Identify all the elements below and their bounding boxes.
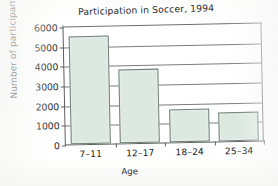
y-tick-mark <box>62 145 66 146</box>
y-tick-label: 6000 <box>34 22 58 33</box>
y-tick-group: 0100020003000400050006000 <box>63 24 260 28</box>
bar <box>119 69 160 144</box>
y-tick-mark <box>60 47 64 48</box>
y-tick-mark <box>61 126 65 127</box>
x-tick-label: 18–24 <box>175 147 204 158</box>
x-tick-label: 12–17 <box>126 148 155 159</box>
y-tick-label: 2000 <box>35 101 59 112</box>
y-tick-mark <box>59 28 63 29</box>
x-tick-mark <box>214 141 215 145</box>
y-axis-label: Number of participants <box>7 0 19 106</box>
y-tick-mark <box>60 67 64 68</box>
x-tick-mark <box>115 143 116 147</box>
x-axis-label: Age <box>121 166 138 176</box>
bar <box>219 111 259 141</box>
x-tick-label: 25–34 <box>225 146 254 157</box>
bar <box>69 35 111 144</box>
y-tick-label: 4000 <box>35 61 59 72</box>
y-tick-mark <box>61 106 65 107</box>
gridline-group <box>63 24 260 28</box>
y-tick-label: 1000 <box>36 120 60 131</box>
y-tick-label: 0 <box>54 140 60 151</box>
y-tick-label: 5000 <box>34 42 58 53</box>
plot-area: 0100020003000400050006000 7–1112–1718–24… <box>63 23 263 145</box>
bar <box>169 108 209 142</box>
bar-group <box>63 24 260 28</box>
x-tick-mark <box>165 142 166 146</box>
page-title: Participation in Soccer, 1994 <box>78 1 268 17</box>
x-tick-mark <box>264 140 265 144</box>
y-tick-mark <box>61 86 65 87</box>
y-tick-label: 3000 <box>35 81 59 92</box>
scan-background: Participation in Soccer, 1994 Number of … <box>0 0 278 186</box>
x-tick-group: 7–1112–1718–2425–34 <box>63 24 260 28</box>
bar-chart-figure: Participation in Soccer, 1994 Number of … <box>0 0 278 186</box>
x-tick-label: 7–11 <box>79 149 102 159</box>
